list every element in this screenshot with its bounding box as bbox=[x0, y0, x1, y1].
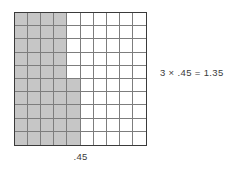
grid-cell bbox=[94, 53, 107, 66]
grid-cell bbox=[41, 132, 54, 145]
grid-cell bbox=[107, 119, 120, 132]
grid-cell bbox=[133, 132, 146, 145]
grid-cell bbox=[120, 132, 133, 145]
width-label: .45 bbox=[14, 151, 147, 162]
grid-cell bbox=[120, 39, 133, 52]
grid-cell bbox=[54, 13, 67, 26]
grid-cell bbox=[28, 26, 41, 39]
grid-cell bbox=[120, 66, 133, 79]
grid-cell bbox=[120, 79, 133, 92]
grid-cell bbox=[81, 66, 94, 79]
grid-cell bbox=[54, 105, 67, 118]
grid-cell bbox=[81, 26, 94, 39]
grid-cell bbox=[41, 119, 54, 132]
grid-cell bbox=[107, 66, 120, 79]
grid-cell bbox=[28, 105, 41, 118]
equation-label: 3 × .45 = 1.35 bbox=[160, 67, 224, 78]
grid-cell bbox=[15, 132, 28, 145]
grid-cell bbox=[41, 26, 54, 39]
grid-cell bbox=[67, 13, 80, 26]
grid-cell bbox=[107, 13, 120, 26]
grid-cell bbox=[120, 13, 133, 26]
grid-cell bbox=[81, 13, 94, 26]
grid-cell bbox=[107, 79, 120, 92]
grid-cell bbox=[15, 13, 28, 26]
grid-cell bbox=[15, 119, 28, 132]
grid-cell bbox=[28, 53, 41, 66]
hundredths-grid bbox=[14, 12, 147, 146]
grid-cell bbox=[94, 119, 107, 132]
grid-cell bbox=[67, 26, 80, 39]
grid-cell bbox=[94, 26, 107, 39]
grid-cell bbox=[94, 66, 107, 79]
grid-cell bbox=[81, 39, 94, 52]
grid-cell bbox=[41, 105, 54, 118]
grid-cell bbox=[54, 119, 67, 132]
grid-cell bbox=[94, 92, 107, 105]
grid-cell bbox=[120, 92, 133, 105]
grid-cell bbox=[15, 79, 28, 92]
grid-cell bbox=[54, 92, 67, 105]
grid-cell bbox=[81, 119, 94, 132]
grid-cell bbox=[94, 79, 107, 92]
grid-cell bbox=[28, 66, 41, 79]
grid-cell bbox=[81, 53, 94, 66]
grid-cell bbox=[28, 132, 41, 145]
grid-cell bbox=[67, 105, 80, 118]
grid-cell bbox=[133, 26, 146, 39]
grid-cell bbox=[94, 132, 107, 145]
grid-cell bbox=[54, 53, 67, 66]
grid-cell bbox=[81, 132, 94, 145]
grid-cell bbox=[133, 13, 146, 26]
grid-cell bbox=[67, 53, 80, 66]
grid-cell bbox=[54, 79, 67, 92]
grid-cell bbox=[67, 92, 80, 105]
grid-cell bbox=[107, 26, 120, 39]
grid-cell bbox=[15, 66, 28, 79]
grid-cell bbox=[41, 53, 54, 66]
grid-cell bbox=[81, 79, 94, 92]
grid-cell bbox=[54, 26, 67, 39]
grid-cell bbox=[67, 132, 80, 145]
grid-cell bbox=[41, 39, 54, 52]
grid-cell bbox=[28, 119, 41, 132]
grid-cell bbox=[107, 39, 120, 52]
grid-cell bbox=[81, 92, 94, 105]
grid-cell bbox=[54, 39, 67, 52]
grid-cell bbox=[107, 105, 120, 118]
grid-cell bbox=[81, 105, 94, 118]
grid-cell bbox=[28, 39, 41, 52]
grid-cell bbox=[133, 79, 146, 92]
grid-cell bbox=[41, 92, 54, 105]
grid-cell bbox=[94, 105, 107, 118]
grid-cell bbox=[133, 53, 146, 66]
grid-cell bbox=[67, 39, 80, 52]
grid-cell bbox=[15, 26, 28, 39]
grid-cell bbox=[15, 92, 28, 105]
grid-cell bbox=[133, 119, 146, 132]
grid-cell bbox=[133, 66, 146, 79]
grid-cell bbox=[15, 39, 28, 52]
grid-cell bbox=[67, 66, 80, 79]
grid-cell bbox=[133, 105, 146, 118]
grid-cell bbox=[94, 13, 107, 26]
grid-cell bbox=[41, 66, 54, 79]
grid-cell bbox=[41, 79, 54, 92]
grid-cell bbox=[54, 132, 67, 145]
grid-cell bbox=[107, 92, 120, 105]
grid-cell bbox=[28, 13, 41, 26]
grid-cell bbox=[67, 79, 80, 92]
grid-cell bbox=[15, 53, 28, 66]
grid-cell bbox=[28, 92, 41, 105]
grid-cell bbox=[28, 79, 41, 92]
grid-cell bbox=[120, 26, 133, 39]
grid-cell bbox=[133, 39, 146, 52]
grid-cell bbox=[107, 132, 120, 145]
grid-cell bbox=[15, 105, 28, 118]
grid-cell bbox=[120, 53, 133, 66]
grid-cell bbox=[107, 53, 120, 66]
grid-cell bbox=[54, 66, 67, 79]
grid-cell bbox=[94, 39, 107, 52]
figure-canvas: 3 × .45 = 1.35 .45 bbox=[0, 0, 237, 174]
grid-cell bbox=[120, 119, 133, 132]
